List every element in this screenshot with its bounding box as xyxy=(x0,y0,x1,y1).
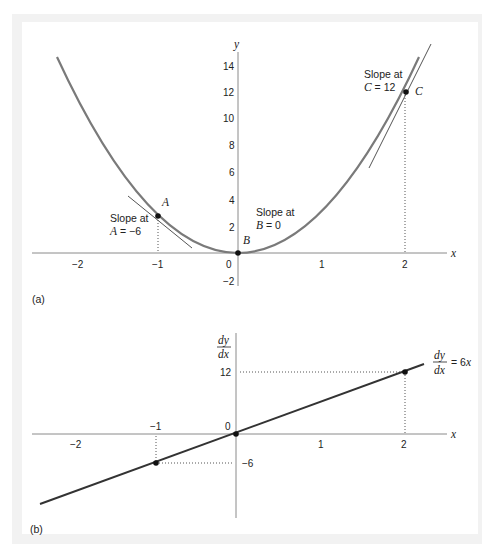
panel-a-y-tick: −2 xyxy=(223,276,235,287)
panel-a-y-tick: 10 xyxy=(223,113,235,124)
panel-a-x-axis-label: x xyxy=(450,247,457,259)
panel-a-point-a xyxy=(155,213,161,219)
panel-b-y-axis-label-num: dy xyxy=(218,334,230,347)
panel-a-y-tick: 2 xyxy=(229,222,235,233)
panel-b-y-axis-label-den: dx xyxy=(218,348,230,360)
panel-a-y-tick: 4 xyxy=(229,195,235,206)
panel-b-point-0 xyxy=(233,431,239,437)
panel-a-point-c xyxy=(403,89,409,95)
panel-a-note-a-line1: Slope at xyxy=(110,212,149,224)
panel-b-eq-num: dy xyxy=(434,349,446,362)
figure: x y −2 −1 0 1 2 14 12 10 8 6 4 2 −2 xyxy=(0,0,490,557)
panel-b-x-axis-label: x xyxy=(450,428,457,440)
panel-a-y-tick: 6 xyxy=(229,167,235,178)
panel-a-y-tick: 8 xyxy=(229,140,235,151)
panel-b-eq-rhs: = 6x xyxy=(451,356,472,368)
panel-b-point-2 xyxy=(402,369,408,375)
panel-b-x-tick: 2 xyxy=(401,439,407,450)
panel-b-x-tick: 0 xyxy=(225,421,231,432)
panel-b: x dy dx −2 −1 0 1 2 12 −6 xyxy=(30,333,472,535)
panel-b-point-m1 xyxy=(153,460,159,466)
panel-a: x y −2 −1 0 1 2 14 12 10 8 6 4 2 −2 xyxy=(32,38,457,305)
panel-b-x-tick: −2 xyxy=(70,439,82,450)
figure-svg: x y −2 −1 0 1 2 14 12 10 8 6 4 2 −2 xyxy=(0,0,490,557)
panel-a-label-b: B xyxy=(243,234,250,246)
panel-a-note-c-line1: Slope at xyxy=(364,68,403,80)
panel-b-x-tick: −1 xyxy=(150,421,162,432)
panel-a-note-a-line2: A = −6 xyxy=(109,225,141,237)
panel-b-y-tick: −6 xyxy=(242,458,254,469)
panel-a-x-tick: 2 xyxy=(402,259,408,270)
panel-a-point-b xyxy=(235,250,241,256)
panel-b-eq-den: dx xyxy=(434,364,446,376)
panel-b-label: (b) xyxy=(30,523,43,535)
panel-a-label: (a) xyxy=(32,293,45,305)
panel-a-y-axis-label: y xyxy=(233,38,240,51)
panel-b-y-tick: 12 xyxy=(220,367,232,378)
panel-a-x-tick: 1 xyxy=(319,259,325,270)
panel-a-y-tick: 12 xyxy=(223,87,235,98)
panel-a-note-b-line1: Slope at xyxy=(256,206,295,218)
panel-a-note-c-line2: C = 12 xyxy=(364,81,395,93)
panel-a-tangent-c xyxy=(369,44,431,168)
panel-a-y-tick: 14 xyxy=(223,61,235,72)
panel-a-label-c: C xyxy=(415,85,423,97)
panel-a-note-b-line2: B = 0 xyxy=(256,219,281,231)
panel-a-label-a: A xyxy=(161,196,170,208)
panel-a-x-tick: −2 xyxy=(72,259,84,270)
panel-b-x-tick: 1 xyxy=(318,439,324,450)
panel-a-x-tick: 0 xyxy=(226,259,232,270)
panel-a-x-tick: −1 xyxy=(152,259,164,270)
